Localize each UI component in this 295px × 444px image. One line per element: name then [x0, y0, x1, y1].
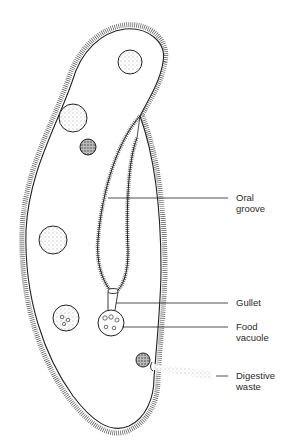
label-line: Oral	[236, 192, 265, 203]
label-oral-groove: Oral groove	[236, 192, 265, 214]
label-gullet: Gullet	[236, 297, 261, 308]
label-line: vacuole	[236, 332, 269, 343]
label-line: Food	[236, 321, 269, 332]
label-line: groove	[236, 203, 265, 214]
label-digestive-waste: Digestive waste	[236, 370, 275, 392]
label-line: Gullet	[236, 297, 261, 308]
label-line: Digestive	[236, 370, 275, 381]
digestive-waste-spray	[151, 362, 212, 380]
food-vacuole-shape	[98, 310, 124, 336]
label-food-vacuole: Food vacuole	[236, 321, 269, 343]
label-line: waste	[236, 381, 275, 392]
